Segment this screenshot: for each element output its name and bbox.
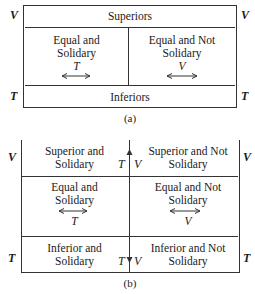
- double-arrow-icon: [165, 72, 199, 80]
- cell-line1: Inferior and Not: [138, 242, 238, 255]
- double-arrow-icon: [60, 72, 92, 80]
- cell-line1: Superior and: [22, 145, 127, 158]
- label-v-top-left: V: [8, 150, 16, 165]
- caption-a: (a): [115, 112, 145, 124]
- axis-center: [129, 140, 130, 273]
- cell-line2: Solidary: [22, 194, 127, 207]
- label-v-top-left: V: [10, 8, 18, 23]
- cell-line2: Solidary: [129, 47, 235, 60]
- divider-top: [22, 176, 238, 177]
- divider-bottom: [25, 85, 235, 86]
- label-t-bottom-right: T: [241, 89, 248, 104]
- cell-superior-solidary: Superior and Solidary: [22, 145, 127, 171]
- label-t-bottom-right: T: [243, 251, 250, 266]
- cell-equal-not-solidary: Equal and Not Solidary V: [129, 34, 235, 73]
- cell-superior-not-solidary: Superior and Not Solidary: [138, 145, 238, 171]
- cell-line2: Solidary: [138, 158, 238, 171]
- label-t-bottom-left: T: [10, 89, 17, 104]
- caption-b: (b): [115, 277, 145, 289]
- cell-line1: Equal and Not: [129, 34, 235, 47]
- cell-line1: Equal and: [22, 181, 127, 194]
- label-t-bottom-left: T: [8, 251, 15, 266]
- cell-line2: Solidary: [138, 194, 238, 207]
- divider-top: [25, 27, 235, 28]
- cell-line2: Solidary: [22, 255, 127, 268]
- cell-line1: Superior and Not: [138, 145, 238, 158]
- cell-line1: Equal and: [25, 34, 128, 47]
- band-inferiors: Inferiors: [25, 91, 235, 104]
- label-v-top-right: V: [241, 8, 249, 23]
- cell-line1: Equal and Not: [138, 181, 238, 194]
- cell-line2: Solidary: [138, 255, 238, 268]
- cell-inferior-solidary: Inferior and Solidary: [22, 242, 127, 268]
- divider-bottom: [22, 236, 238, 237]
- band-superiors: Superiors: [25, 10, 235, 23]
- cell-line2: Solidary: [22, 158, 127, 171]
- label-v-top-right: V: [243, 150, 251, 165]
- symbol-t: T: [22, 215, 127, 228]
- double-arrow-icon: [168, 207, 202, 215]
- cell-equal-solidary: Equal and Solidary: [22, 181, 127, 207]
- symbol-v: V: [138, 215, 238, 228]
- cell-line2: Solidary: [25, 47, 128, 60]
- cell-equal-not-solidary: Equal and Not Solidary: [138, 181, 238, 207]
- cell-equal-solidary: Equal and Solidary T: [25, 34, 128, 73]
- cell-line1: Inferior and: [22, 242, 127, 255]
- cell-inferior-not-solidary: Inferior and Not Solidary: [138, 242, 238, 268]
- double-arrow-icon: [57, 207, 89, 215]
